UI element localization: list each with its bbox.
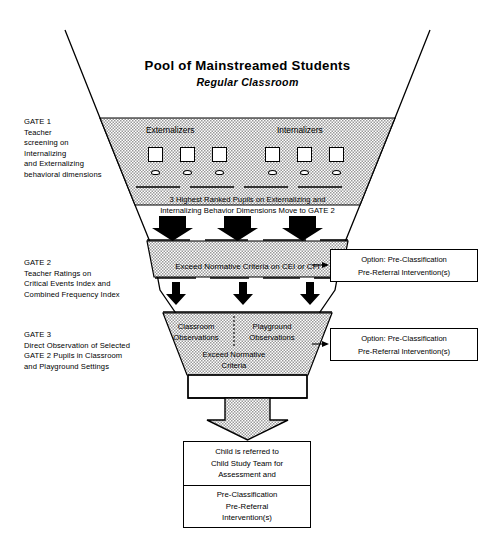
final-top-line-2: Assessment and [218,469,276,481]
gate3-exceed-line-1: Criteria [160,361,308,372]
internalizers-label: Internalizers [277,125,323,135]
pupil-box-int-2 [297,147,312,162]
gate1-line-4: and Externalizing [24,159,102,170]
pupil-box-int-3 [329,147,344,162]
option1-line-1: Pre-Referral Intervention(s) [335,266,473,279]
final-bot-line-0: Pre-Classification [217,489,278,501]
final-referral-box: Child is referred to Child Study Team fo… [183,441,311,528]
pupil-box-ext-1 [148,147,163,162]
page-subtitle: Regular Classroom [0,76,495,88]
classroom-line-1: Observations [160,333,232,344]
gate1-line-1: Teacher [24,128,102,139]
gate1-description: GATE 1 Teacher screening on Internalizin… [24,117,102,181]
externalizers-label: Externalizers [146,125,194,135]
pupil-marker-ext-1 [151,170,160,175]
diagram-canvas: Pool of Mainstreamed Students Regular Cl… [0,0,495,541]
gate2-output-arrows [166,282,320,305]
option2-line-0: Option: Pre-Classification [335,332,473,345]
gate1-line-0: GATE 1 [24,117,102,128]
final-flow-arrow [207,398,288,440]
classroom-observations-label: Classroom Observations [160,322,232,343]
option1-line-0: Option: Pre-Classification [335,253,473,266]
gate1-band [100,118,395,205]
gate3-exceed-line-0: Exceed Normative [160,350,308,361]
pupil-marker-int-1 [268,170,277,175]
final-referral-bottom: Pre-Classification Pre-Referral Interven… [184,486,310,527]
gate1-line-5: behavioral dimensions [24,170,102,181]
pupil-box-int-1 [265,147,280,162]
classroom-line-0: Classroom [160,322,232,333]
gate3-description: GATE 3 Direct Observation of Selected GA… [24,330,130,372]
final-bot-line-1: Pre-Referral [226,501,268,513]
gate1-output-line-0: 3 Highest Ranked Pupils on Externalizing… [0,194,495,205]
gate1-output-line-1: Internalizing Behavior Dimensions Move t… [0,205,495,216]
gate3-line-1: Direct Observation of Selected [24,341,130,352]
final-bot-line-2: Intervention(s) [222,512,272,524]
gate2-line-3: Combined Frequency Index [24,290,120,301]
pupil-marker-int-3 [332,170,341,175]
gate1-line-2: screening on [24,138,102,149]
gate3-line-2: GATE 2 Pupils in Classroom [24,351,130,362]
option-box-gate3: Option: Pre-Classification Pre-Referral … [330,328,478,361]
gate3-line-0: GATE 3 [24,330,130,341]
pupil-box-ext-2 [180,147,195,162]
option2-line-1: Pre-Referral Intervention(s) [335,345,473,358]
final-referral-top: Child is referred to Child Study Team fo… [184,442,310,486]
gate1-output-caption: 3 Highest Ranked Pupils on Externalizing… [0,194,495,216]
gate2-line-2: Critical Events Index and [24,279,120,290]
playground-line-1: Observations [236,333,308,344]
gate3-exceed-criteria-label: Exceed Normative Criteria [160,350,308,371]
final-top-line-0: Child is referred to [215,446,279,458]
gate2-input-arrows [152,216,323,241]
pupil-box-ext-3 [212,147,227,162]
page-title: Pool of Mainstreamed Students [0,58,495,73]
gate3-line-3: and Playground Settings [24,362,130,373]
pupil-marker-ext-2 [183,170,192,175]
pupil-marker-int-2 [300,170,309,175]
gate2-band [147,241,348,277]
final-top-line-1: Child Study Team for [211,458,283,470]
playground-observations-label: Playground Observations [236,322,308,343]
pupil-marker-ext-3 [215,170,224,175]
playground-line-0: Playground [236,322,308,333]
funnel-stem [188,375,307,398]
option-box-gate2: Option: Pre-Classification Pre-Referral … [330,249,478,282]
gate1-line-3: Internalizing [24,149,102,160]
